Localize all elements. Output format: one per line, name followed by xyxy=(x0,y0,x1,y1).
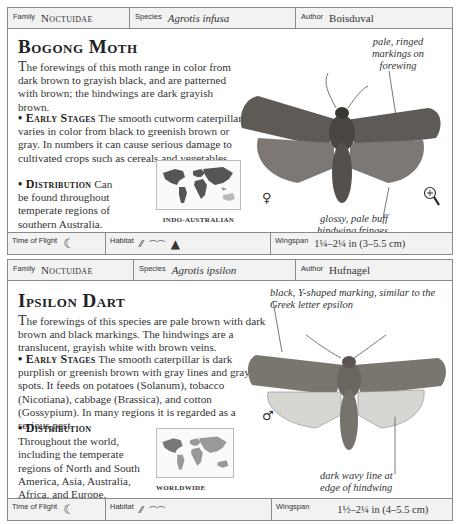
wingspan-label: Wingspan xyxy=(275,236,308,245)
species-value: Agrotis infusa xyxy=(168,12,230,24)
annotation-leader-line xyxy=(272,300,284,355)
world-map-worldwide xyxy=(156,428,234,478)
time-of-flight-label: Time of Flight xyxy=(12,502,57,511)
female-symbol-icon: ♀ xyxy=(262,190,272,205)
family-label: Family xyxy=(13,12,35,21)
farmland-icon: ⁄⁄ xyxy=(140,505,143,515)
card-footer: Time of Flight ☾ Habitat ⁄⁄ ⌒⌒ ▲ Wingspa… xyxy=(8,232,452,254)
map-region-label: INDO-AUSTRALIAN xyxy=(156,216,241,224)
distribution-text: • Distribution Can be found throughout t… xyxy=(18,178,118,231)
male-symbol-icon: ♂ xyxy=(262,408,274,423)
common-name-title: Bogong Moth xyxy=(18,36,138,58)
common-name-title: Ipsilon Dart xyxy=(18,290,125,312)
distribution-heading: • Distribution xyxy=(18,177,91,191)
description-text: The forewings of this moth range in colo… xyxy=(18,60,243,114)
early-stages-heading: • Early Stages xyxy=(18,352,96,366)
species-label: Species xyxy=(139,264,166,273)
author-cell: Author Hufnagel xyxy=(296,260,452,280)
family-value: Noctuidae xyxy=(41,12,93,24)
early-stages-heading: • Early Stages xyxy=(18,111,96,125)
annotation-forewing: pale, ringed markings on forewing xyxy=(353,36,443,72)
world-map-icon xyxy=(157,161,240,209)
author-cell: Author Boisduval xyxy=(296,8,452,28)
wingspan-value: 1¼–2¼ in (3–5.5 cm) xyxy=(314,238,405,249)
crescent-moon-icon: ☾ xyxy=(63,502,75,517)
author-value: Hufnagel xyxy=(329,264,370,276)
species-card-ipsilon-dart: Family Noctuidae Species Agrotis ipsilon… xyxy=(7,259,453,521)
time-of-flight-label: Time of Flight xyxy=(12,236,57,245)
wingspan-value: 1½–2¼ in (4–5.5 cm) xyxy=(337,504,428,515)
species-card-bogong-moth: Family Noctuidae Species Agrotis infusa … xyxy=(7,7,453,255)
grassland-icon: ⌒⌒ xyxy=(149,238,165,249)
habitat-label: Habitat xyxy=(110,236,134,245)
author-label: Author xyxy=(301,12,323,21)
time-of-flight-cell: Time of Flight ☾ xyxy=(8,233,106,254)
grassland-icon: ⌒⌒ xyxy=(149,504,165,515)
card-header: Family Noctuidae Species Agrotis infusa … xyxy=(8,8,452,29)
species-value: Agrotis ipsilon xyxy=(172,264,237,276)
species-cell: Species Agrotis ipsilon xyxy=(134,260,296,280)
distribution-text: • Distribution Throughout the world, inc… xyxy=(18,422,148,501)
distribution-heading: • Distribution xyxy=(18,422,148,435)
map-region-label: WORLDWIDE xyxy=(156,484,216,492)
farmland-icon: ⁄⁄ xyxy=(140,239,143,249)
family-value: Noctuidae xyxy=(41,264,93,276)
wingspan-cell: Wingspan 1½–2¼ in (4–5.5 cm) xyxy=(272,499,452,520)
author-label: Author xyxy=(301,264,323,273)
early-stages-text: • Early Stages The smooth cutworm caterp… xyxy=(18,112,243,165)
wingspan-cell: Wingspan 1¼–2¼ in (3–5.5 cm) xyxy=(271,233,452,254)
author-value: Boisduval xyxy=(329,12,374,24)
species-label: Species xyxy=(135,12,162,21)
mountain-icon: ▲ xyxy=(171,237,180,251)
family-cell: Family Noctuidae xyxy=(8,8,130,28)
magnifier-plus-icon[interactable] xyxy=(423,186,441,208)
world-map-indo-australian xyxy=(156,160,241,210)
wingspan-label: Wingspan xyxy=(276,502,309,511)
world-map-icon xyxy=(157,429,233,477)
description-text: The forewings of this species are pale b… xyxy=(18,314,266,355)
annotation-epsilon-marking: black, Y-shaped marking, similar to the … xyxy=(270,287,445,311)
habitat-label: Habitat xyxy=(110,502,134,511)
crescent-moon-icon: ☾ xyxy=(63,236,75,251)
annotation-leader-line xyxy=(388,70,398,118)
card-header: Family Noctuidae Species Agrotis ipsilon… xyxy=(8,260,452,281)
time-of-flight-cell: Time of Flight ☾ xyxy=(8,499,106,520)
family-label: Family xyxy=(13,264,35,273)
annotation-leader-line xyxy=(392,416,398,476)
species-cell: Species Agrotis infusa xyxy=(130,8,296,28)
card-footer: Time of Flight ☾ Habitat ⁄⁄ ⌒⌒ Wingspan … xyxy=(8,498,452,520)
family-cell: Family Noctuidae xyxy=(8,260,134,280)
habitat-cell: Habitat ⁄⁄ ⌒⌒ ▲ xyxy=(106,233,271,254)
habitat-cell: Habitat ⁄⁄ ⌒⌒ xyxy=(106,499,272,520)
annotation-leader-line xyxy=(381,186,391,221)
